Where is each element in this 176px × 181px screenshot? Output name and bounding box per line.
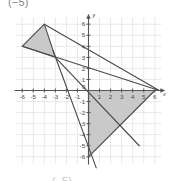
origin-label: 0 xyxy=(82,83,86,90)
coordinate-plane-svg: xy-6-5-4-3-2-1123456654321-1-2-3-4-5-60 xyxy=(0,0,176,181)
x-tick-label: -2 xyxy=(64,93,70,100)
x-tick-label: 4 xyxy=(131,93,135,100)
y-tick-label: 2 xyxy=(82,65,86,72)
x-tick-label: -4 xyxy=(42,93,48,100)
y-axis-arrowhead xyxy=(86,14,90,19)
y-tick-label: -6 xyxy=(80,153,86,160)
coordinate-plane: xy-6-5-4-3-2-1123456654321-1-2-3-4-5-60 xyxy=(0,0,176,181)
y-tick-label: 6 xyxy=(82,20,86,27)
y-tick-label: -3 xyxy=(80,120,86,127)
y-tick-label: -2 xyxy=(80,109,86,116)
y-tick-label: 4 xyxy=(82,43,86,50)
y-tick-label: -1 xyxy=(80,98,86,105)
x-tick-label: 5 xyxy=(142,93,146,100)
small-shaded-triangle xyxy=(22,24,55,57)
chart-figure: (−5) xy-6-5-4-3-2-1123456654321-1-2-3-4-… xyxy=(0,0,176,181)
x-tick-label: 1 xyxy=(98,93,102,100)
x-tick-label: 3 xyxy=(120,93,124,100)
x-tick-label: -6 xyxy=(19,93,25,100)
x-tick-label: -5 xyxy=(30,93,36,100)
y-axis-name: y xyxy=(92,12,97,18)
y-tick-label: -5 xyxy=(80,142,86,149)
x-axis-name: x xyxy=(162,91,166,97)
caption-bottom-fragment: (−5) xyxy=(0,175,176,181)
x-tick-label: 6 xyxy=(153,93,157,100)
x-tick-label: -3 xyxy=(53,93,59,100)
x-tick-label: 2 xyxy=(109,93,113,100)
y-tick-label: 3 xyxy=(82,54,86,61)
y-tick-label: 5 xyxy=(82,31,86,38)
y-tick-label: -4 xyxy=(80,131,86,138)
